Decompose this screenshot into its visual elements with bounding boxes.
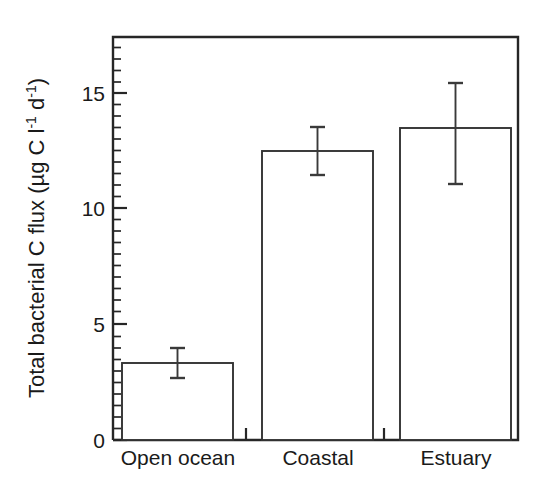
bar-group-open-ocean[interactable] (122, 348, 233, 440)
x-category-label-estuary: Estuary (420, 446, 492, 469)
y-tick-label-10: 10 (82, 197, 105, 220)
bar-group-coastal[interactable] (262, 127, 373, 440)
bar-coastal[interactable] (262, 151, 373, 440)
x-axis-category-labels: Open ocean Coastal Estuary (121, 446, 492, 469)
y-tick-label-5: 5 (93, 313, 105, 336)
bar-chart-figure: Total bacterial C flux (µg C l-1 d-1) (0, 0, 547, 488)
bar-series (122, 83, 511, 440)
y-axis-label-sup-a: -1 (23, 116, 39, 129)
y-tick-label-15: 15 (82, 82, 105, 105)
x-category-label-open-ocean: Open ocean (121, 446, 235, 469)
bar-group-estuary[interactable] (400, 83, 511, 440)
y-axis-label-main-a: Total bacterial C flux (µg C l (24, 129, 49, 398)
y-axis-label-sup-b: -1 (23, 85, 39, 98)
y-axis-label-main-b: d (24, 98, 49, 116)
y-axis-tick-labels: 0 5 10 15 (82, 82, 105, 452)
y-tick-label-0: 0 (93, 429, 105, 452)
y-axis-label: Total bacterial C flux (µg C l-1 d-1) (23, 78, 49, 398)
svg-text:Total bacterial C flux (µg C l: Total bacterial C flux (µg C l-1 d-1) (23, 78, 49, 398)
x-category-label-coastal: Coastal (282, 446, 353, 469)
chart-svg: Total bacterial C flux (µg C l-1 d-1) (0, 0, 547, 488)
y-axis-label-main-c: ) (24, 78, 49, 85)
